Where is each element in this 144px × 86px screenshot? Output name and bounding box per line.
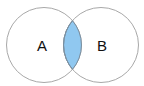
venn-diagram: A B bbox=[0, 0, 144, 86]
set-b-label: B bbox=[97, 37, 107, 54]
set-a-label: A bbox=[37, 37, 47, 54]
